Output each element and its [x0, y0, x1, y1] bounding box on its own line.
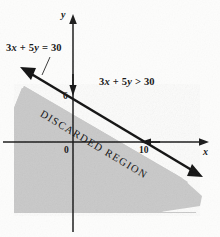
boundary-equation-label: 3x + 5y = 30 [6, 43, 62, 54]
origin-label: 0 [64, 146, 69, 156]
x-intercept-tick-label: 10 [139, 146, 149, 156]
inequality-graph-figure: 3x + 5y = 30 3x + 5y > 30 DISCARDED REGI… [0, 0, 220, 237]
graph-canvas [0, 0, 220, 237]
y-intercept-tick-label: 6 [63, 92, 68, 102]
y-axis-label: y [61, 10, 65, 20]
x-axis-label: x [203, 147, 208, 157]
inequality-label: 3x + 5y > 30 [99, 77, 155, 88]
paper-grain [0, 0, 220, 237]
